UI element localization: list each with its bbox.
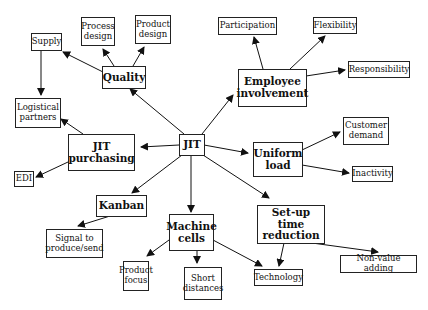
edge-quality-process [103,49,114,66]
node-jit-purchasing: JIT purchasing [68,134,135,171]
edge-employee-participation [254,37,263,69]
edge-quality-supply [63,52,103,72]
node-jit: JIT [179,134,205,156]
edge-employee-responsibility [306,70,345,76]
node-participation: Participation [218,17,277,35]
node-edi: EDI [14,171,34,187]
edge-jit-purchasing [141,145,179,147]
node-uniform-load: Uniform load [253,142,303,177]
node-product-design: Product design [135,15,171,44]
jit-concept-diagram: JIT Quality Employee involvement JIT pur… [0,0,428,310]
node-short-distances: Short distances [184,267,222,300]
node-employee-involvement: Employee involvement [238,69,307,107]
edge-purchasing-edi [36,162,68,177]
edge-setup-technology [279,243,284,266]
edge-kanban-signal [78,216,110,226]
edge-jit-quality [130,89,184,134]
edge-quality-product [133,47,144,66]
node-logistical-partners: Logistical partners [15,98,61,128]
node-signal-to-produce-send: Signal to produce/send [46,229,103,258]
node-technology: Technology [254,269,303,286]
node-non-value-adding: Non-value adding [340,255,417,273]
node-supply: Supply [31,33,62,51]
node-customer-demand: Customer demand [343,117,389,145]
node-process-design: Process design [81,17,115,46]
edge-jit-employee [202,95,233,134]
edge-machine-technology [213,240,262,266]
edge-employee-flexibility [290,36,325,69]
node-quality: Quality [102,66,146,89]
node-kanban: Kanban [96,195,147,217]
edge-jit-uniform [204,145,248,153]
edge-uniform-inactivity [302,165,349,173]
edge-purchasing-logistical [61,119,83,134]
edge-jit-kanban [132,155,182,193]
edge-setup-nonvalue [312,243,378,252]
node-inactivity: Inactivity [352,166,393,182]
node-responsibility: Responsibility [348,61,410,78]
node-setup-time-reduction: Set-up time reduction [257,205,325,244]
edge-uniform-customer [302,132,340,150]
node-machine-cells: Machine cells [169,214,214,251]
node-flexibility: Flexibility [313,17,357,34]
node-product-focus: Product focus [123,261,149,291]
